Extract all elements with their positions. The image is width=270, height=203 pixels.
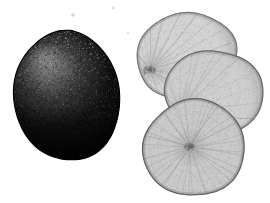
specimen-image [0, 0, 270, 203]
specimen-figure: A dark round seed at left beside three o… [0, 0, 270, 203]
